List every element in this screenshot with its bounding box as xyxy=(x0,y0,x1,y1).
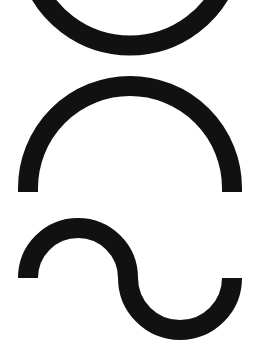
sine-wave-shape xyxy=(28,228,232,330)
curve-strokes xyxy=(28,0,232,330)
curves-figure xyxy=(0,0,266,349)
bottom-arc-shape xyxy=(30,0,230,45)
top-arch-shape xyxy=(28,86,232,192)
